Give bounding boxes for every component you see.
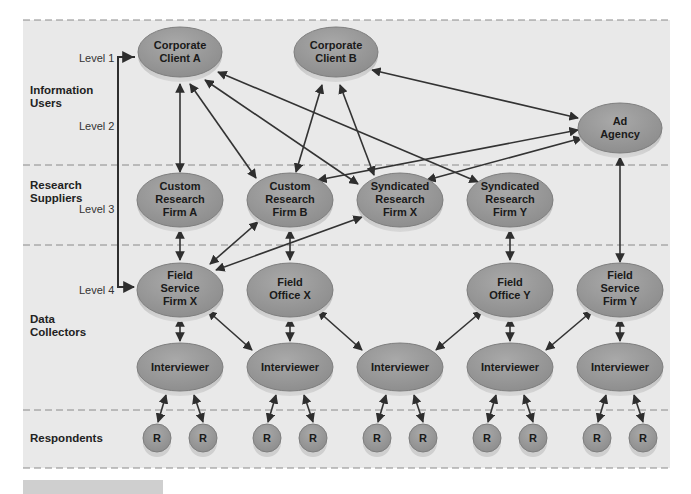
level-1-label: Level 1 — [79, 52, 114, 64]
band-label-research-suppliers-2: Suppliers — [30, 192, 82, 204]
svg-text:Interviewer: Interviewer — [371, 361, 430, 373]
svg-text:Research: Research — [375, 193, 425, 205]
node-field-office-x: Field Office X — [247, 263, 333, 322]
svg-text:Interviewer: Interviewer — [151, 361, 210, 373]
svg-text:Ad: Ad — [613, 115, 628, 127]
respondent-8: R — [519, 424, 547, 457]
svg-text:Research: Research — [265, 193, 315, 205]
band-label-information-users-2: Users — [30, 97, 62, 109]
node-field-office-y: Field Office Y — [467, 263, 553, 322]
figure-caption-bar — [23, 480, 163, 494]
node-interviewer-5: Interviewer — [577, 343, 663, 396]
node-interviewer-2: Interviewer — [247, 343, 333, 396]
svg-text:Custom: Custom — [270, 180, 311, 192]
svg-text:R: R — [153, 432, 161, 444]
band-label-data-collectors-2: Collectors — [30, 326, 86, 338]
svg-text:Interviewer: Interviewer — [591, 361, 650, 373]
svg-text:Client A: Client A — [159, 52, 200, 64]
svg-text:Syndicated: Syndicated — [481, 180, 540, 192]
node-syndicated-research-firm-x: Syndicated Research Firm X — [357, 173, 443, 232]
svg-text:R: R — [309, 432, 317, 444]
band-label-information-users: Information — [30, 84, 93, 96]
svg-text:Field: Field — [497, 276, 523, 288]
svg-text:Research: Research — [485, 193, 535, 205]
respondent-10: R — [629, 424, 657, 457]
level-2-label: Level 2 — [79, 120, 114, 132]
svg-text:Corporate: Corporate — [154, 39, 207, 51]
svg-text:R: R — [483, 432, 491, 444]
svg-text:Corporate: Corporate — [310, 39, 363, 51]
svg-text:Service: Service — [600, 282, 639, 294]
svg-text:Interviewer: Interviewer — [481, 361, 540, 373]
svg-text:Firm A: Firm A — [163, 206, 197, 218]
level-4-label: Level 4 — [79, 284, 114, 296]
svg-text:Firm X: Firm X — [383, 206, 418, 218]
svg-text:R: R — [373, 432, 381, 444]
node-interviewer-3: Interviewer — [357, 343, 443, 396]
svg-text:Firm Y: Firm Y — [493, 206, 528, 218]
svg-text:Firm X: Firm X — [163, 295, 198, 307]
node-syndicated-research-firm-y: Syndicated Research Firm Y — [467, 173, 553, 232]
svg-text:R: R — [593, 432, 601, 444]
svg-text:Field: Field — [277, 276, 303, 288]
svg-text:Research: Research — [155, 193, 205, 205]
svg-text:R: R — [263, 432, 271, 444]
svg-text:Interviewer: Interviewer — [261, 361, 320, 373]
diagram-panel — [23, 20, 670, 468]
svg-text:Service: Service — [160, 282, 199, 294]
respondent-7: R — [473, 424, 501, 457]
node-field-service-firm-x: Field Service Firm X — [137, 263, 223, 322]
node-corporate-client-a: Corporate Client A — [138, 27, 222, 82]
node-interviewer-4: Interviewer — [467, 343, 553, 396]
respondent-2: R — [189, 424, 217, 457]
band-label-research-suppliers: Research — [30, 179, 82, 191]
svg-text:Office X: Office X — [269, 289, 311, 301]
svg-text:Custom: Custom — [160, 180, 201, 192]
svg-text:R: R — [639, 432, 647, 444]
respondent-1: R — [143, 424, 171, 457]
node-field-service-firm-y: Field Service Firm Y — [577, 263, 663, 322]
svg-text:Firm Y: Firm Y — [603, 295, 638, 307]
svg-text:Firm B: Firm B — [273, 206, 308, 218]
node-corporate-client-b: Corporate Client B — [294, 27, 378, 82]
svg-text:Syndicated: Syndicated — [371, 180, 430, 192]
node-interviewer-1: Interviewer — [137, 343, 223, 396]
svg-text:R: R — [529, 432, 537, 444]
level-3-label: Level 3 — [79, 203, 114, 215]
node-custom-research-firm-a: Custom Research Firm A — [137, 173, 223, 232]
respondent-5: R — [363, 424, 391, 457]
respondent-3: R — [253, 424, 281, 457]
svg-text:Office Y: Office Y — [489, 289, 531, 301]
svg-text:Client B: Client B — [315, 52, 357, 64]
svg-text:Field: Field — [167, 269, 193, 281]
respondent-4: R — [299, 424, 327, 457]
band-label-data-collectors: Data — [30, 313, 56, 325]
svg-text:Field: Field — [607, 269, 633, 281]
svg-text:Agency: Agency — [600, 128, 641, 140]
respondent-6: R — [409, 424, 437, 457]
band-label-respondents: Respondents — [30, 432, 103, 444]
svg-text:R: R — [419, 432, 427, 444]
svg-text:R: R — [199, 432, 207, 444]
node-custom-research-firm-b: Custom Research Firm B — [247, 173, 333, 232]
respondent-9: R — [583, 424, 611, 457]
node-ad-agency: Ad Agency — [578, 103, 662, 158]
